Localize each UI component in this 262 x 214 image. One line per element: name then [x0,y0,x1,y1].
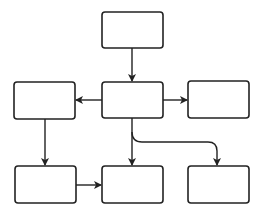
flowchart-canvas [0,0,262,214]
edge-mid-center-to-bottom-right [132,132,217,165]
node-mid-left[interactable] [14,82,75,119]
node-top[interactable] [102,12,163,48]
node-mid-center[interactable] [102,82,163,118]
node-bottom-center[interactable] [102,166,163,203]
node-bottom-left[interactable] [15,166,76,203]
node-bottom-right[interactable] [188,166,249,203]
node-mid-right[interactable] [188,81,249,118]
